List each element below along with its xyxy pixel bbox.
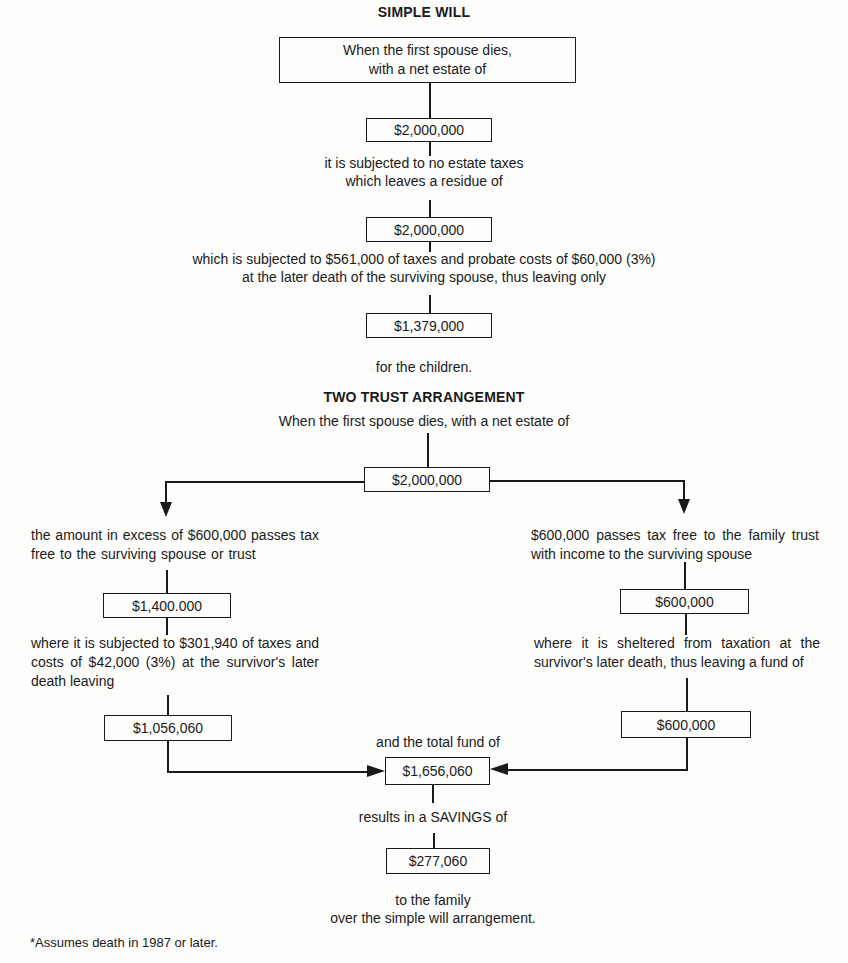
left-branch-line bbox=[165, 481, 167, 503]
connector bbox=[686, 678, 688, 711]
start-box-line-2: with a net estate of bbox=[369, 60, 487, 79]
right-branch-line bbox=[683, 480, 685, 500]
right-branch-text1: $600,000 passes tax free to the family t… bbox=[531, 526, 819, 564]
right-branch-value1: $600,000 bbox=[620, 589, 749, 614]
connector bbox=[167, 741, 169, 772]
left-branch-value2: $1,056,060 bbox=[104, 715, 232, 741]
simple-will-estate-value: $2,000,000 bbox=[366, 118, 492, 142]
simple-will-step2-line1: which is subjected to $561,000 of taxes … bbox=[0, 250, 848, 269]
connector bbox=[684, 562, 686, 589]
two-trust-end-line2: over the simple will arrangement. bbox=[0, 909, 848, 928]
two-trust-intro: When the first spouse dies, with a net e… bbox=[0, 412, 848, 431]
left-branch-value1: $1,400.000 bbox=[103, 593, 231, 618]
arrow-down-icon bbox=[160, 502, 172, 517]
simple-will-step1-line2: which leaves a residue of bbox=[0, 172, 848, 191]
left-branch-line bbox=[165, 481, 364, 483]
left-branch-text1: the amount in excess of $600,000 passes … bbox=[31, 526, 319, 564]
simple-will-title: SIMPLE WILL bbox=[0, 4, 848, 20]
arrow-left-icon bbox=[490, 763, 508, 775]
simple-will-step1-line1: it is subjected to no estate taxes bbox=[0, 154, 848, 173]
savings-text: results in a SAVINGS of bbox=[0, 808, 848, 827]
connector bbox=[685, 614, 687, 635]
simple-will-end-text: for the children. bbox=[0, 358, 848, 377]
simple-will-step2-line2: at the later death of the surviving spou… bbox=[0, 268, 848, 287]
footnote: *Assumes death in 1987 or later. bbox=[30, 933, 218, 952]
simple-will-residue-value: $2,000,000 bbox=[366, 217, 492, 242]
simple-will-children-value: $1,379,000 bbox=[366, 313, 492, 338]
connector bbox=[167, 695, 169, 715]
connector bbox=[686, 738, 688, 769]
arrow-right-icon bbox=[367, 765, 385, 777]
right-branch-value2: $600,000 bbox=[621, 711, 751, 738]
connector bbox=[429, 83, 431, 118]
start-box-line-1: When the first spouse dies, bbox=[343, 41, 512, 60]
arrow-down-icon bbox=[678, 499, 690, 514]
connector bbox=[433, 833, 435, 848]
right-branch-text2: where it is sheltered from taxation at t… bbox=[534, 634, 820, 672]
left-branch-text2: where it is subjected to $301,940 of tax… bbox=[31, 634, 319, 691]
two-trust-end-line1: to the family bbox=[0, 891, 848, 910]
right-branch-line bbox=[490, 480, 684, 482]
connector bbox=[166, 570, 168, 593]
left-merge-line bbox=[167, 771, 371, 773]
simple-will-start-box: When the first spouse dies, with a net e… bbox=[279, 37, 576, 83]
connector bbox=[429, 200, 431, 217]
total-value: $1,656,060 bbox=[385, 757, 490, 785]
connector bbox=[432, 785, 434, 803]
savings-value: $277,060 bbox=[386, 848, 490, 874]
two-trust-title: TWO TRUST ARRANGEMENT bbox=[0, 389, 848, 405]
right-merge-line bbox=[507, 769, 688, 771]
total-text: and the total fund of bbox=[330, 733, 546, 752]
connector bbox=[427, 433, 429, 467]
connector bbox=[166, 618, 168, 635]
two-trust-estate-value: $2,000,000 bbox=[364, 467, 490, 492]
connector bbox=[429, 295, 431, 313]
